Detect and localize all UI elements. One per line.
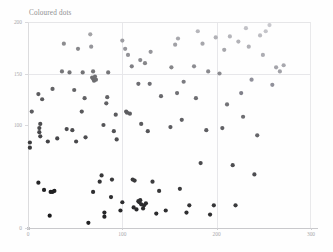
scatter-point (101, 123, 105, 127)
scatter-point (236, 39, 240, 43)
scatter-points-layer (28, 22, 311, 228)
scatter-point (159, 94, 163, 98)
scatter-point (40, 97, 44, 101)
scatter-point (109, 195, 113, 199)
scatter-point (89, 45, 93, 49)
scatter-point (252, 172, 256, 176)
scatter-point (247, 45, 251, 49)
y-tick-label: 200 (14, 19, 22, 25)
scatter-point (60, 69, 64, 73)
scatter-point (164, 208, 168, 212)
scatter-point (74, 139, 78, 143)
scatter-point (274, 65, 278, 69)
scatter-point (206, 69, 210, 73)
scatter-point (134, 207, 138, 211)
scatter-point (28, 140, 32, 144)
x-tick-label: 200 (213, 231, 221, 237)
scatter-point (258, 33, 262, 37)
scatter-point (105, 95, 109, 99)
scatter-point (120, 38, 124, 42)
scatter-point (239, 91, 243, 95)
scatter-plot-figure: Coloured dots 0100200300 0100150200 (0, 0, 333, 252)
scatter-point (184, 210, 188, 214)
scatter-point (157, 189, 161, 193)
scatter-point (80, 110, 84, 114)
scatter-point (83, 96, 87, 100)
scatter-point (169, 65, 173, 69)
scatter-point (255, 133, 259, 137)
scatter-point (204, 128, 208, 132)
scatter-point (225, 102, 229, 106)
scatter-point (110, 177, 114, 181)
scatter-point (187, 203, 191, 207)
scatter-point (192, 64, 196, 68)
scatter-point (120, 200, 124, 204)
scatter-point (212, 203, 216, 207)
scatter-point (118, 208, 122, 212)
scatter-point (196, 29, 200, 33)
scatter-point (199, 161, 203, 165)
scatter-point (102, 215, 106, 219)
y-tick-label: 150 (14, 71, 22, 77)
scatter-point (222, 48, 226, 52)
y-tick-mark (25, 74, 28, 75)
x-tick-mark (28, 228, 29, 230)
scatter-point (67, 70, 71, 74)
scatter-point (115, 137, 119, 141)
scatter-point (261, 53, 265, 57)
scatter-point (126, 53, 130, 57)
scatter-point (176, 36, 180, 40)
scatter-point (139, 122, 143, 126)
x-tick-label: 300 (307, 231, 315, 237)
scatter-point (278, 69, 282, 73)
scatter-point (194, 96, 198, 100)
x-tick-mark (311, 228, 312, 230)
scatter-point (123, 47, 127, 51)
scatter-point (37, 126, 41, 130)
scatter-point (112, 129, 116, 133)
scatter-point (233, 203, 237, 207)
scatter-point (282, 63, 286, 67)
x-tick-label: 100 (118, 231, 126, 237)
scatter-point (81, 70, 85, 74)
scatter-point (133, 179, 137, 183)
scatter-point (178, 187, 182, 191)
scatter-point (70, 128, 74, 132)
scatter-point (72, 88, 76, 92)
y-tick-mark (25, 22, 28, 23)
scatter-point (38, 134, 42, 138)
scatter-point (62, 42, 66, 46)
scatter-point (114, 113, 118, 117)
scatter-point (144, 201, 148, 205)
y-tick-label: 100 (14, 122, 22, 128)
scatter-point (83, 135, 87, 139)
x-tick-label: 0 (27, 231, 30, 237)
scatter-point (98, 180, 102, 184)
scatter-point (42, 188, 46, 192)
scatter-point (244, 26, 248, 30)
scatter-point (99, 173, 103, 177)
scatter-point (36, 181, 40, 185)
scatter-point (148, 82, 152, 86)
y-tick-label: 0 (19, 225, 22, 231)
scatter-point (106, 70, 110, 74)
scatter-point (91, 69, 95, 73)
scatter-point (228, 34, 232, 38)
scatter-point (88, 32, 92, 36)
scatter-point (65, 127, 69, 131)
scatter-point (52, 189, 56, 193)
scatter-point (50, 87, 54, 91)
scatter-point (48, 214, 52, 218)
scatter-point (91, 190, 95, 194)
scatter-point (241, 115, 245, 119)
scatter-point (270, 83, 274, 87)
scatter-point (86, 221, 90, 225)
scatter-point (149, 50, 153, 54)
scatter-point (249, 78, 253, 82)
scatter-point (180, 118, 184, 122)
scatter-point (36, 92, 40, 96)
scatter-point (130, 64, 134, 68)
scatter-point (182, 80, 186, 84)
scatter-point (150, 180, 154, 184)
scatter-point (231, 163, 235, 167)
